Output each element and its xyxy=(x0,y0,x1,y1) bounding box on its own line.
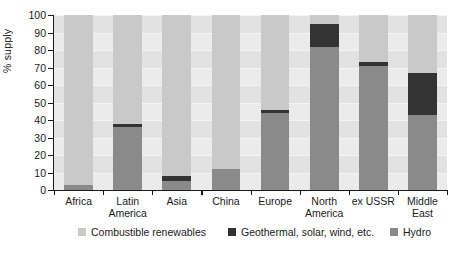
y-axis-tick xyxy=(48,15,53,16)
legend-swatch-icon xyxy=(390,228,398,236)
legend-label: Geothermal, solar, wind, etc. xyxy=(241,226,374,238)
x-axis-tick xyxy=(349,191,350,195)
legend-label: Hydro xyxy=(403,226,431,238)
y-axis-tick xyxy=(48,68,53,69)
y-axis-tick-label: 0 xyxy=(40,184,46,196)
bar xyxy=(162,15,191,190)
y-axis-tick xyxy=(48,155,53,156)
legend-swatch-icon xyxy=(228,228,236,236)
bar-segment xyxy=(310,47,339,191)
legend-item: Hydro xyxy=(390,225,431,239)
y-axis-tick-label: 50 xyxy=(34,97,46,109)
bar-segment xyxy=(212,15,241,169)
y-axis-tick-label: 100 xyxy=(28,9,46,21)
x-axis-label: Latin America xyxy=(103,196,152,219)
x-axis-tick xyxy=(300,191,301,195)
bar-segment xyxy=(261,15,290,110)
bar-segment xyxy=(359,15,388,62)
y-axis-tick xyxy=(48,190,53,191)
bar xyxy=(113,15,142,190)
y-axis-tick-labels: 1009080706050403020100 xyxy=(14,10,46,190)
x-axis-label: Africa xyxy=(54,196,103,208)
bar-segment xyxy=(408,15,437,73)
bar xyxy=(261,15,290,190)
bar xyxy=(64,15,93,190)
y-axis-tick xyxy=(48,120,53,121)
bar-segment xyxy=(261,110,290,114)
x-axis-label: Europe xyxy=(251,196,300,208)
bar-segment xyxy=(162,176,191,181)
bar xyxy=(359,15,388,190)
bar-segment xyxy=(359,66,388,190)
bar-segment xyxy=(64,185,93,190)
bar-segment xyxy=(408,73,437,115)
bar xyxy=(212,15,241,190)
bar-segment xyxy=(64,15,93,185)
x-axis-label: Middle East xyxy=(398,196,447,219)
x-axis-tick xyxy=(201,191,202,195)
y-axis-tick xyxy=(48,173,53,174)
legend-item: Combustible renewables xyxy=(78,225,206,239)
x-axis-label: China xyxy=(201,196,250,208)
y-axis-tick-label: 30 xyxy=(34,132,46,144)
x-axis-tick xyxy=(251,191,252,195)
bar-segment xyxy=(359,62,388,66)
legend-swatch-icon xyxy=(78,228,86,236)
y-axis-tick xyxy=(48,33,53,34)
x-axis-label: North America xyxy=(300,196,349,219)
bar xyxy=(310,15,339,190)
plot-area xyxy=(54,15,447,190)
legend-item: Geothermal, solar, wind, etc. xyxy=(228,225,374,239)
y-axis-tick-label: 10 xyxy=(34,167,46,179)
x-axis-tick xyxy=(54,191,55,195)
y-axis-tick xyxy=(48,50,53,51)
chart-legend: Combustible renewablesGeothermal, solar,… xyxy=(0,225,462,245)
bar-segment xyxy=(310,24,339,47)
bar-segment xyxy=(113,15,142,124)
y-axis-tick-label: 90 xyxy=(34,27,46,39)
x-axis-label: ex USSR xyxy=(349,196,398,208)
y-axis-tick xyxy=(48,138,53,139)
y-axis-tick xyxy=(48,103,53,104)
y-axis-tick-label: 80 xyxy=(34,44,46,56)
y-axis-tick-label: 40 xyxy=(34,114,46,126)
x-axis-tick xyxy=(447,191,448,195)
bar-segment xyxy=(310,15,339,24)
chart-container: % supply 1009080706050403020100 Combusti… xyxy=(0,0,462,253)
bar-segment xyxy=(261,113,290,190)
bar-segment xyxy=(162,15,191,176)
y-axis-tick-label: 60 xyxy=(34,79,46,91)
bar-segment xyxy=(162,181,191,190)
x-axis-tick xyxy=(398,191,399,195)
bar-segment xyxy=(113,127,142,190)
x-axis-tick xyxy=(152,191,153,195)
legend-label: Combustible renewables xyxy=(91,226,206,238)
bar-segment xyxy=(408,115,437,190)
x-axis-label: Asia xyxy=(152,196,201,208)
y-axis-tick xyxy=(48,85,53,86)
bar-segment xyxy=(113,124,142,128)
bar xyxy=(408,15,437,190)
y-axis-tick-label: 70 xyxy=(34,62,46,74)
x-axis-tick xyxy=(103,191,104,195)
bar-segment xyxy=(212,169,241,190)
y-axis-tick-label: 20 xyxy=(34,149,46,161)
